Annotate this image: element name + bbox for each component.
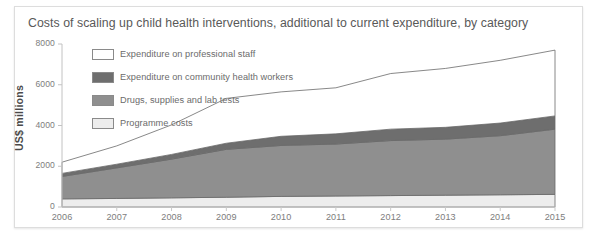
- y-tick-label: 6000: [9, 79, 55, 89]
- legend-item: Drugs, supplies and lab tests: [92, 90, 293, 110]
- legend-swatch-icon: [92, 49, 114, 60]
- x-tick-label: 2015: [532, 212, 578, 222]
- chart-legend: Expenditure on professional staffExpendi…: [92, 44, 293, 136]
- y-tick-label: 0: [9, 201, 55, 211]
- legend-item-label: Expenditure on professional staff: [120, 49, 255, 59]
- legend-item: Programme costs: [92, 113, 293, 133]
- x-tick-label: 2013: [422, 212, 468, 222]
- y-tick-label: 2000: [9, 160, 55, 170]
- legend-item: Expenditure on professional staff: [92, 44, 293, 64]
- x-tick-label: 2009: [203, 212, 249, 222]
- y-tick-label: 8000: [9, 38, 55, 48]
- y-tick-label: 4000: [9, 120, 55, 130]
- legend-item-label: Expenditure on community health workers: [120, 72, 293, 82]
- legend-swatch-icon: [92, 95, 114, 106]
- x-tick-label: 2008: [149, 212, 195, 222]
- x-tick-label: 2010: [258, 212, 304, 222]
- legend-swatch-icon: [92, 72, 114, 83]
- legend-item-label: Drugs, supplies and lab tests: [120, 95, 239, 105]
- x-tick-label: 2012: [368, 212, 414, 222]
- x-tick-label: 2011: [313, 212, 359, 222]
- x-tick-label: 2006: [39, 212, 85, 222]
- page-title: Costs of scaling up child health interve…: [28, 16, 528, 30]
- legend-item: Expenditure on community health workers: [92, 67, 293, 87]
- legend-item-label: Programme costs: [120, 118, 193, 128]
- x-tick-label: 2014: [477, 212, 523, 222]
- legend-swatch-icon: [92, 118, 114, 129]
- x-tick-label: 2007: [94, 212, 140, 222]
